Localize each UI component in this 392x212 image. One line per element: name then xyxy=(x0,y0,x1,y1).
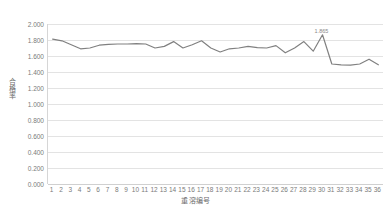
x-axis-tick-label: 21 xyxy=(234,186,241,194)
x-axis-tick-label: 4 xyxy=(78,186,82,194)
y-axis-tick-label: 0.000 xyxy=(18,181,44,188)
x-axis-tick-label: 1 xyxy=(50,186,54,194)
x-axis-tick-label: 33 xyxy=(346,186,353,194)
x-axis-tick-label: 36 xyxy=(374,186,381,194)
x-axis-tick-label: 17 xyxy=(197,186,204,194)
x-axis-tick-label: 24 xyxy=(262,186,269,194)
x-axis-tick-label: 30 xyxy=(318,186,325,194)
x-axis-tick-label: 34 xyxy=(355,186,362,194)
x-axis-tick-label: 16 xyxy=(188,186,195,194)
y-axis-tick-label: 0.600 xyxy=(18,133,44,140)
x-axis-tick-label: 6 xyxy=(96,186,100,194)
x-axis-tick-label: 29 xyxy=(309,186,316,194)
x-axis-tick-label: 27 xyxy=(290,186,297,194)
x-axis-tick-label: 2 xyxy=(59,186,63,194)
x-axis-tick-label: 14 xyxy=(169,186,176,194)
x-axis-tick-label: 5 xyxy=(87,186,91,194)
gridline xyxy=(48,184,383,185)
y-axis-tick-label: 1.400 xyxy=(18,69,44,76)
y-axis-tick-labels: 0.0000.2000.4000.6000.8001.0001.2001.400… xyxy=(18,20,44,188)
x-axis-tick-label: 28 xyxy=(299,186,306,194)
line-chart: 合格率 0.0000.2000.4000.6000.8001.0001.2001… xyxy=(0,0,392,212)
y-axis-tick-label: 2.000 xyxy=(18,21,44,28)
x-axis-tick-label: 20 xyxy=(225,186,232,194)
plot-area xyxy=(47,24,383,184)
y-axis-tick-label: 0.400 xyxy=(18,149,44,156)
data-point-annotation: 1.865 xyxy=(315,28,329,34)
x-axis-tick-label: 11 xyxy=(141,186,148,194)
x-axis-tick-label: 19 xyxy=(216,186,223,194)
x-axis-tick-label: 8 xyxy=(115,186,119,194)
x-axis-tick-label: 31 xyxy=(327,186,334,194)
x-axis-tick-label: 23 xyxy=(253,186,260,194)
x-axis-tick-label: 7 xyxy=(106,186,110,194)
y-axis-tick-label: 1.200 xyxy=(18,85,44,92)
x-axis-tick-label: 3 xyxy=(68,186,72,194)
y-axis-tick-label: 1.800 xyxy=(18,37,44,44)
x-axis-tick-label: 18 xyxy=(206,186,213,194)
x-axis-tick-label: 26 xyxy=(281,186,288,194)
y-axis-tick-label: 0.200 xyxy=(18,165,44,172)
x-axis-tick-label: 10 xyxy=(132,186,139,194)
x-axis-tick-label: 35 xyxy=(364,186,371,194)
x-axis-tick-label: 25 xyxy=(271,186,278,194)
x-axis-tick-label: 9 xyxy=(124,186,128,194)
y-axis-tick-label: 0.800 xyxy=(18,117,44,124)
y-axis-title: 合格率 xyxy=(2,78,16,99)
series-line xyxy=(48,24,383,184)
x-axis-tick-labels: 1234567891011121314151617181920212223242… xyxy=(47,186,382,196)
x-axis-tick-label: 15 xyxy=(178,186,185,194)
y-axis-tick-label: 1.000 xyxy=(18,101,44,108)
x-axis-tick-label: 13 xyxy=(160,186,167,194)
x-axis-tick-label: 22 xyxy=(243,186,250,194)
y-axis-tick-label: 1.600 xyxy=(18,53,44,60)
x-axis-title: 重溶编号 xyxy=(0,196,392,205)
x-axis-tick-label: 12 xyxy=(150,186,157,194)
x-axis-tick-label: 32 xyxy=(337,186,344,194)
